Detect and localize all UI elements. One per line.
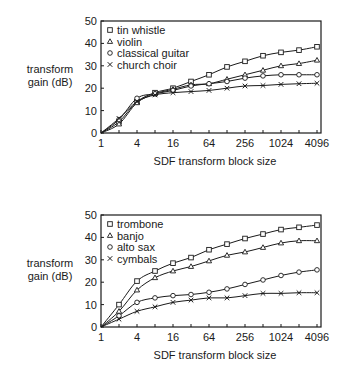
chart-bottom: transformgain (dB)0102030405014166425610… — [0, 194, 350, 375]
y-tick-label: 20 — [85, 276, 97, 288]
legend-label: trombone — [117, 218, 163, 230]
data-point-marker — [261, 232, 266, 237]
data-point-marker — [189, 84, 194, 89]
x-tick-label: 16 — [167, 137, 179, 149]
x-tick-label: 1 — [98, 331, 104, 343]
legend-label: alto sax — [117, 241, 155, 253]
data-point-marker — [315, 72, 320, 77]
data-point-marker — [225, 79, 230, 84]
series-classical-guitar — [101, 72, 319, 133]
data-point-marker — [189, 255, 194, 260]
circle-marker-icon — [108, 245, 113, 250]
x-tick-label: 64 — [203, 331, 215, 343]
data-point-marker — [315, 223, 320, 228]
triangle-marker-icon — [107, 233, 112, 238]
data-point-marker — [153, 296, 158, 301]
y-axis-label: transformgain (dB) — [27, 257, 73, 282]
data-point-marker — [171, 293, 176, 298]
series-cymbals — [101, 290, 319, 327]
data-point-marker — [171, 261, 176, 266]
y-tick-label: 20 — [85, 82, 97, 94]
square-marker-icon — [108, 28, 113, 33]
data-point-marker — [153, 269, 158, 274]
y-axis-label: transformgain (dB) — [27, 63, 73, 88]
y-tick-label: 50 — [85, 209, 97, 221]
data-point-marker — [279, 72, 284, 77]
x-axis-label: SDF transform block size — [154, 155, 277, 167]
data-point-marker — [315, 44, 320, 49]
y-tick-label: 30 — [85, 60, 97, 72]
data-point-marker — [189, 292, 194, 297]
data-point-marker — [207, 81, 212, 86]
data-point-marker — [117, 302, 122, 307]
y-tick-label: 0 — [91, 321, 97, 333]
data-point-marker — [243, 76, 248, 81]
x-tick-label: 1024 — [269, 137, 293, 149]
x-tick-label: 256 — [236, 137, 254, 149]
data-point-marker — [261, 278, 266, 283]
x-tick-label: 4 — [134, 137, 140, 149]
data-point-marker — [279, 273, 284, 278]
data-point-marker — [243, 236, 248, 241]
y-tick-label: 30 — [85, 254, 97, 266]
x-tick-label: 256 — [236, 331, 254, 343]
data-point-marker — [225, 242, 230, 247]
data-point-marker — [135, 300, 140, 305]
data-point-marker — [297, 225, 302, 230]
data-point-marker — [297, 72, 302, 77]
y-tick-label: 10 — [85, 299, 97, 311]
data-point-marker — [225, 287, 230, 292]
y-tick-label: 50 — [85, 15, 97, 27]
x-marker-icon — [108, 256, 113, 261]
legend-label: tin whistle — [117, 24, 165, 36]
series-line — [101, 60, 317, 133]
y-tick-label: 0 — [91, 127, 97, 139]
triangle-marker-icon — [107, 39, 112, 44]
legend-label: cymbals — [117, 253, 158, 265]
series-church-choir — [101, 81, 319, 133]
x-tick-label: 64 — [203, 137, 215, 149]
y-tick-label: 40 — [85, 37, 97, 49]
legend-label: violin — [117, 36, 142, 48]
data-point-marker — [279, 50, 284, 55]
x-tick-label: 1024 — [269, 331, 293, 343]
data-point-marker — [261, 53, 266, 58]
x-marker-icon — [108, 62, 113, 67]
chart-top: transformgain (dB)0102030405014166425610… — [0, 0, 350, 187]
data-point-marker — [225, 65, 230, 70]
x-tick-label: 4 — [134, 331, 140, 343]
legend: trombonebanjoalto saxcymbals — [107, 218, 163, 265]
data-point-marker — [297, 48, 302, 53]
y-tick-label: 10 — [85, 105, 97, 117]
data-point-marker — [243, 59, 248, 64]
data-point-marker — [243, 282, 248, 287]
data-point-marker — [315, 268, 320, 273]
x-axis-label: SDF transform block size — [154, 349, 277, 361]
legend-label: banjo — [117, 230, 144, 242]
circle-marker-icon — [108, 51, 113, 56]
data-point-marker — [297, 270, 302, 275]
data-point-marker — [207, 247, 212, 252]
data-point-marker — [261, 74, 266, 79]
data-point-marker — [135, 279, 140, 284]
data-point-marker — [207, 72, 212, 77]
x-tick-label: 1 — [98, 137, 104, 149]
square-marker-icon — [108, 222, 113, 227]
y-tick-label: 40 — [85, 231, 97, 243]
legend-label: classical guitar — [117, 47, 189, 59]
legend-label: church choir — [117, 59, 177, 71]
x-tick-label: 16 — [167, 331, 179, 343]
legend: tin whistleviolinclassical guitarchurch … — [107, 24, 189, 71]
x-tick-label: 4096 — [305, 331, 329, 343]
data-point-marker — [207, 290, 212, 295]
data-point-marker — [314, 58, 319, 63]
data-point-marker — [279, 227, 284, 232]
x-tick-label: 4096 — [305, 137, 329, 149]
